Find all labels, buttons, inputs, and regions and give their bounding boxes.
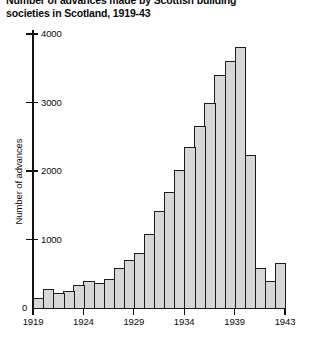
bar-1922 <box>63 291 74 309</box>
bar-1939 <box>235 47 246 309</box>
bar-1923 <box>73 285 84 308</box>
bar-1930 <box>144 234 155 309</box>
bar-1919 <box>33 298 44 309</box>
bar-1936 <box>204 103 215 309</box>
bar-1925 <box>93 283 104 308</box>
bar-1935 <box>194 126 205 308</box>
bar-1920 <box>43 289 54 309</box>
bar-1927 <box>114 268 125 308</box>
bar-1934 <box>184 147 195 309</box>
bar-1932 <box>164 192 175 309</box>
bar-1941 <box>255 268 266 308</box>
bar-1928 <box>124 260 135 309</box>
bar-1926 <box>104 279 115 308</box>
bar-1943 <box>275 263 286 309</box>
bar-1931 <box>154 211 165 309</box>
bar-1933 <box>174 170 185 309</box>
bar-1924 <box>83 281 94 309</box>
bar-1942 <box>265 281 276 308</box>
bar-1938 <box>225 61 236 308</box>
bar-1929 <box>134 253 145 309</box>
plot-area: 01000200030004000 1919192419291934193919… <box>0 0 312 348</box>
chart-figure: Number of advances made by Scottish buil… <box>0 0 312 348</box>
bar-1937 <box>214 75 225 309</box>
bars-layer <box>0 0 312 348</box>
bar-1921 <box>53 293 64 309</box>
bar-1940 <box>245 155 256 308</box>
